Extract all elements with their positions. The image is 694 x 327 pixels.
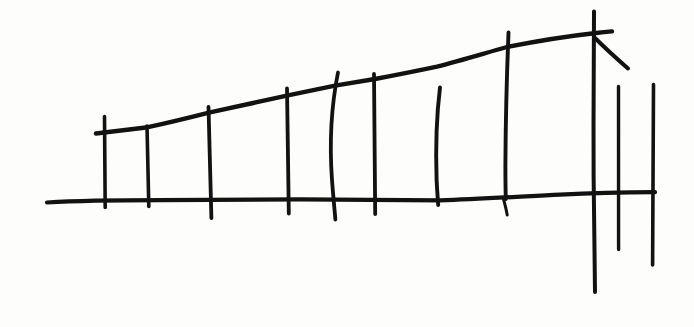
post-4 xyxy=(287,89,289,214)
post-6 xyxy=(374,74,375,214)
short-post-right xyxy=(653,85,654,266)
sketch-canvas xyxy=(0,0,694,327)
post-1 xyxy=(105,117,106,208)
post-2 xyxy=(147,126,149,207)
post-9-tall xyxy=(594,12,595,293)
sketch-svg xyxy=(0,0,694,327)
